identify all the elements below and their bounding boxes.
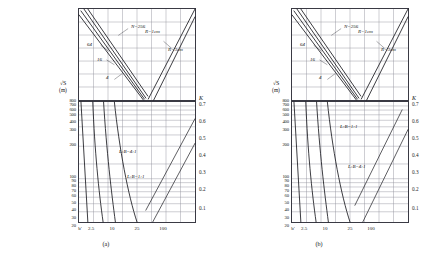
panel-b-label-r3cm: R=3cm bbox=[381, 47, 396, 52]
panel-a-xtick-10: 10 bbox=[106, 226, 118, 231]
panel-a-xtick-2-5: 2.5 bbox=[84, 226, 98, 231]
panel-b-ktick-0-4: 0.4 bbox=[412, 153, 418, 158]
panel-a-ytick-500: 500 bbox=[58, 113, 76, 118]
panel-b-upper-grid bbox=[292, 9, 408, 100]
panel-b-y-axis-title: √S (m) bbox=[263, 80, 289, 93]
panel-b-xtick-100: 100 bbox=[363, 226, 379, 231]
panel-a-y-axis-title-line2: (m) bbox=[50, 87, 76, 93]
panel-a-label-n16: 16 bbox=[97, 57, 102, 62]
panel-a-xtick-25: 25 bbox=[131, 226, 143, 231]
panel-a-y-axis-title-line1: √S bbox=[50, 80, 76, 87]
panel-a-upper-grid bbox=[79, 9, 195, 100]
panel-a-s-curves bbox=[81, 102, 137, 222]
panel-a-label-n256: N=256 bbox=[131, 24, 145, 29]
panel-a-ktick-0-7: 0.7 bbox=[199, 102, 205, 107]
panel-b-ktick-0-1: 0.1 bbox=[412, 206, 418, 211]
panel-a-ktick-0-3: 0.3 bbox=[199, 170, 205, 175]
panel-b-ktick-0-7: 0.7 bbox=[412, 102, 418, 107]
panel-b-n-curves bbox=[292, 9, 361, 100]
panel-b: N=256 64 16 4 R=1cm R=3cm bbox=[213, 0, 426, 262]
panel-b-xtick-2-5: 2.5 bbox=[297, 226, 311, 231]
panel-b-lower-grid bbox=[292, 102, 408, 222]
panel-a-ytick-30: 30 bbox=[58, 216, 76, 221]
panel-a-caption: (a) bbox=[86, 240, 126, 247]
panel-a-label-r1cm: R=1cm bbox=[145, 29, 160, 34]
panel-b-xtick-10: 10 bbox=[319, 226, 331, 231]
panel-a-lower-grid bbox=[79, 102, 195, 222]
panel-a-xtick-100: 100 bbox=[155, 226, 171, 231]
panel-a-ratio-lines bbox=[146, 119, 195, 222]
panel-b-ytick-500: 500 bbox=[271, 113, 289, 118]
panel-a-ytick-400: 400 bbox=[58, 120, 76, 125]
panel-b-label-n256: N=256 bbox=[344, 24, 358, 29]
panel-a-label-n4: 4 bbox=[106, 75, 109, 80]
panel-b-r-lines bbox=[361, 9, 408, 100]
panel-a: N=256 64 16 4 R=1cm R=3cm bbox=[0, 0, 213, 262]
panel-b-label-n4: 4 bbox=[319, 75, 322, 80]
panel-b-ytick-400: 400 bbox=[271, 120, 289, 125]
panel-a-label-lb11: L:B=1:1 bbox=[127, 174, 145, 179]
figure-container: N=256 64 16 4 R=1cm R=3cm bbox=[0, 0, 426, 262]
panel-b-label-lb41: L:B=4:1 bbox=[348, 164, 366, 169]
panel-a-ktick-0-6: 0.6 bbox=[199, 119, 205, 124]
panel-b-ktick-0-6: 0.6 bbox=[412, 119, 418, 124]
panel-b-caption: (b) bbox=[299, 240, 339, 247]
panel-b-label-r1cm: R=1cm bbox=[358, 29, 373, 34]
panel-a-ytick-60: 60 bbox=[58, 194, 76, 199]
panel-b-upper-plot: N=256 64 16 4 R=1cm R=3cm bbox=[291, 8, 409, 101]
panel-a-ytick-50: 50 bbox=[58, 201, 76, 206]
panel-b-label-n64: 64 bbox=[300, 42, 305, 47]
panel-a-n-curves bbox=[79, 9, 148, 100]
panel-a-y-axis-title: √S (m) bbox=[50, 80, 76, 93]
panel-a-ktick-0-1: 0.1 bbox=[199, 206, 205, 211]
panel-a-ktick-0-2: 0.2 bbox=[199, 187, 205, 192]
panel-a-label-r3cm: R=3cm bbox=[168, 47, 183, 52]
panel-b-xtick-25: 25 bbox=[344, 226, 356, 231]
panel-a-label-lb41: L:B=4:1 bbox=[119, 149, 137, 154]
panel-b-ytick-50: 50 bbox=[271, 201, 289, 206]
panel-a-ytick-300: 300 bbox=[58, 128, 76, 133]
panel-a-ktick-0-5: 0.5 bbox=[199, 136, 205, 141]
panel-b-y-axis-title-line2: (m) bbox=[263, 87, 289, 93]
panel-b-ytick-300: 300 bbox=[271, 128, 289, 133]
panel-a-r-lines bbox=[148, 9, 195, 100]
panel-a-ktick-0-4: 0.4 bbox=[199, 153, 205, 158]
panel-a-label-n64: 64 bbox=[87, 42, 92, 47]
panel-b-ktick-0-2: 0.2 bbox=[412, 187, 418, 192]
panel-b-ytick-60: 60 bbox=[271, 194, 289, 199]
panel-b-ytick-30: 30 bbox=[271, 216, 289, 221]
panel-b-y-axis-title-line1: √S bbox=[263, 80, 289, 87]
panel-b-ytick-200: 200 bbox=[271, 143, 289, 148]
panel-b-lower-plot: L:B=1:1 L:B=4:1 bbox=[291, 101, 409, 223]
panel-a-upper-plot: N=256 64 16 4 R=1cm R=3cm bbox=[78, 8, 196, 101]
panel-a-lower-plot: L:B=4:1 L:B=1:1 bbox=[78, 101, 196, 223]
panel-b-label-lb11: L:B=1:1 bbox=[340, 124, 358, 129]
panel-b-ktick-0-3: 0.3 bbox=[412, 170, 418, 175]
panel-b-ktick-0-5: 0.5 bbox=[412, 136, 418, 141]
panel-b-s-curves bbox=[294, 102, 350, 222]
panel-b-ytick-40: 40 bbox=[271, 208, 289, 213]
panel-a-ytick-200: 200 bbox=[58, 143, 76, 148]
panel-b-label-n16: 16 bbox=[310, 57, 315, 62]
panel-a-ytick-40: 40 bbox=[58, 208, 76, 213]
